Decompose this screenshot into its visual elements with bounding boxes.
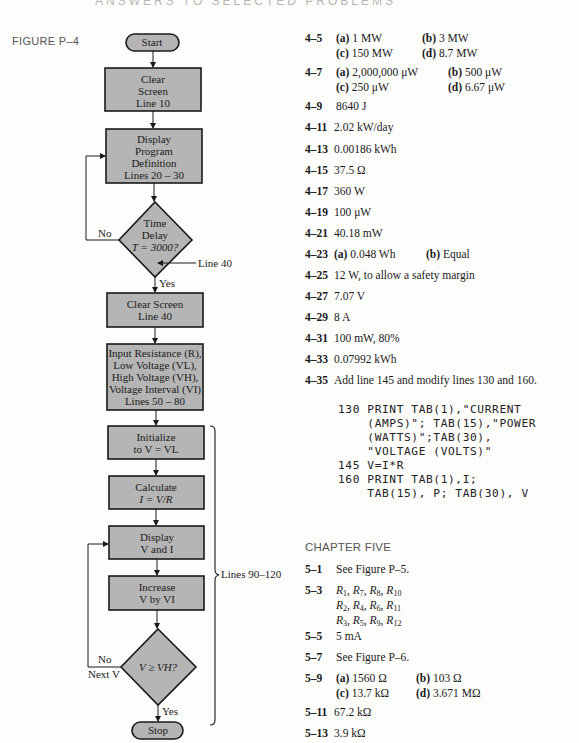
code-line: 145 V=I*R	[338, 459, 536, 473]
time-delay-line2: Delay	[142, 229, 169, 241]
clear-screen-line3: Line 10	[136, 97, 170, 109]
code-line: 160 PRINT TAB(1),I;	[338, 473, 536, 487]
resistor-group-3: R3, R5, R9, R12	[336, 614, 401, 630]
brace-label: Lines 90–120	[221, 568, 282, 580]
clear-screen-40-line2: Line 40	[138, 310, 172, 322]
increase-line1: Increase	[139, 581, 176, 593]
clear-screen-line2: Screen	[138, 85, 168, 97]
resistor-group-2: R2, R4, R6, R11	[336, 599, 401, 615]
code-line: 130 PRINT TAB(1),"CURRENT	[338, 403, 536, 417]
no-label-1: No	[98, 227, 112, 239]
display-program-line2: Program	[135, 145, 173, 157]
clear-screen-40-line1: Clear Screen	[127, 298, 184, 310]
time-delay-line3: T = 3000?	[132, 241, 179, 253]
input-line5: Lines 50 – 80	[125, 395, 186, 407]
resistor-group-1: R1, R7, R8, R10	[336, 584, 401, 600]
initialize-line1: Initialize	[136, 431, 175, 443]
next-v-label: Next V	[88, 668, 120, 680]
chapter-heading: CHAPTER FIVE	[305, 541, 391, 553]
stop-label: Stop	[148, 724, 169, 736]
yes-label-2: Yes	[162, 705, 178, 717]
code-line: TAB(15), P; TAB(30), V	[338, 487, 536, 501]
yes-label-1: Yes	[159, 277, 175, 289]
code-line: (AMPS)"; TAB(15),"POWER	[338, 417, 536, 431]
compare-label: V ≥ VH?	[139, 661, 178, 673]
no-label-2: No	[98, 653, 112, 665]
flowchart: Start Clear Screen Line 10 Display Progr…	[0, 0, 300, 743]
initialize-line2: to V = VL	[133, 443, 178, 455]
display-vi-line1: Display	[140, 531, 175, 543]
time-delay-line1: Time	[144, 217, 167, 229]
display-program-line1: Display	[137, 133, 172, 145]
line40-label: Line 40	[198, 257, 232, 269]
start-label: Start	[142, 36, 163, 48]
increase-line2: V by VI	[139, 593, 175, 605]
display-program-line4: Lines 20 – 30	[124, 169, 185, 181]
basic-code-listing: 130 PRINT TAB(1),"CURRENT (AMPS)"; TAB(1…	[338, 389, 536, 529]
clear-screen-line1: Clear	[141, 73, 165, 85]
code-line: (WATTS)";TAB(30),	[338, 431, 536, 445]
code-line: "VOLTAGE (VOLTS)"	[338, 445, 536, 459]
calculate-line2: I = V/R	[138, 493, 172, 505]
display-vi-line2: V and I	[141, 543, 174, 555]
display-program-line3: Definition	[131, 157, 177, 169]
calculate-line1: Calculate	[135, 481, 177, 493]
